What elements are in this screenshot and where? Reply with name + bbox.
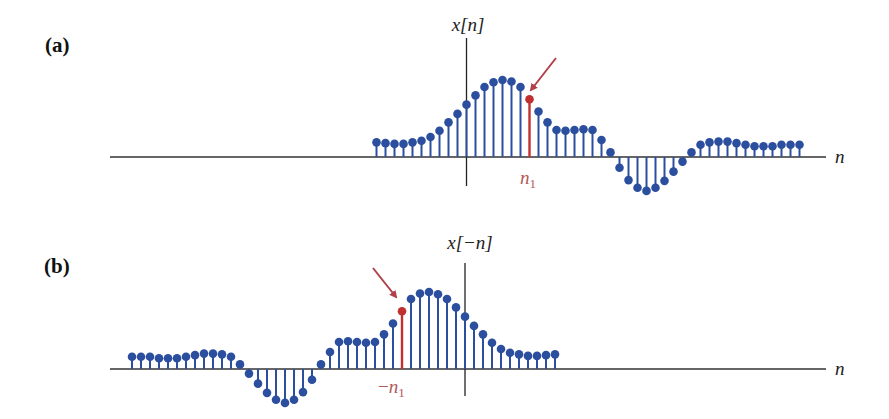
stem-marker — [227, 352, 236, 361]
stem-marker — [209, 349, 218, 358]
stem-marker — [272, 396, 281, 405]
x-axis-label: n — [835, 358, 845, 379]
stem-marker — [371, 338, 380, 347]
highlighted-stem-marker — [398, 307, 407, 316]
stem-marker — [570, 126, 579, 135]
stem-marker — [146, 352, 155, 361]
stem-marker — [795, 140, 804, 149]
stem-marker — [543, 118, 552, 127]
stem-marker — [417, 137, 426, 146]
stem-marker — [290, 396, 299, 405]
stem-marker — [425, 288, 434, 297]
stem-marker — [164, 354, 173, 363]
stem-marker — [200, 349, 209, 358]
stem-marker — [461, 312, 470, 321]
stem-marker — [470, 322, 479, 331]
stem-marker — [678, 157, 687, 166]
stem-marker — [660, 177, 669, 186]
stem-plots: x[n]nn1 x[−n]n−n1 — [0, 0, 889, 419]
stem-marker — [218, 350, 227, 359]
stem-marker — [524, 352, 533, 361]
stem-marker — [308, 375, 317, 384]
x-axis-label: n — [835, 146, 845, 167]
stem-marker — [128, 352, 137, 361]
stem-marker — [696, 140, 705, 149]
stem-marker — [669, 167, 678, 176]
stem-marker — [741, 140, 750, 149]
stem-marker — [506, 349, 515, 358]
stem-marker — [497, 345, 506, 354]
stem-marker — [444, 118, 453, 127]
stem-marker — [434, 290, 443, 299]
stem-marker — [236, 360, 245, 369]
stem-marker — [615, 163, 624, 172]
stem-marker — [254, 379, 263, 388]
stem-marker — [498, 76, 507, 85]
pointer-arrow — [373, 268, 396, 297]
stem-marker — [768, 142, 777, 151]
stem-marker — [317, 360, 326, 369]
stem-marker — [551, 350, 560, 359]
stem-marker — [191, 351, 200, 360]
stem-marker — [534, 107, 543, 116]
stem-marker — [407, 295, 416, 304]
stem-marker — [416, 289, 425, 298]
stem-marker — [155, 354, 164, 363]
stem-marker — [507, 77, 516, 86]
stem-marker — [426, 133, 435, 142]
stem-marker — [705, 138, 714, 147]
stem-marker — [786, 140, 795, 149]
stem-marker — [624, 176, 633, 185]
stem-plot-figure: (a) (b) x[n]nn1 x[−n]n−n1 — [0, 0, 889, 419]
stem-marker — [479, 330, 488, 339]
y-axis-label: x[n] — [451, 14, 485, 35]
stem-marker — [435, 127, 444, 136]
stem-marker — [642, 187, 651, 196]
stem-marker — [515, 350, 524, 359]
stem-marker — [173, 354, 182, 363]
stem-marker — [245, 369, 254, 378]
stem-marker — [723, 137, 732, 146]
stem-marker — [759, 142, 768, 151]
stem-marker — [480, 83, 489, 92]
stem-marker — [390, 140, 399, 149]
stem-marker — [516, 83, 525, 92]
plot-a: x[n]nn1 — [110, 14, 845, 195]
stem-marker — [443, 295, 452, 304]
stem-marker — [542, 351, 551, 360]
stem-marker — [750, 142, 759, 151]
stem-marker — [606, 148, 615, 157]
stem-marker — [372, 138, 381, 147]
stem-marker — [462, 100, 471, 109]
stem-marker — [399, 140, 408, 149]
highlighted-stem-marker — [525, 95, 534, 104]
stem-marker — [362, 339, 371, 348]
stem-marker — [389, 319, 398, 328]
stem-marker — [488, 339, 497, 348]
stem-marker — [552, 126, 561, 135]
marker-label: −n1 — [378, 376, 405, 400]
stem-marker — [714, 137, 723, 146]
plot-b: x[−n]n−n1 — [110, 232, 845, 407]
stem-marker — [777, 140, 786, 149]
stem-marker — [326, 348, 335, 357]
stem-marker — [299, 388, 308, 397]
stem-marker — [588, 126, 597, 135]
stem-marker — [381, 139, 390, 148]
stem-marker — [263, 389, 272, 398]
stem-marker — [732, 139, 741, 148]
y-axis-label: x[−n] — [446, 232, 493, 253]
stem-marker — [489, 78, 498, 87]
stem-marker — [137, 352, 146, 361]
stem-marker — [452, 303, 461, 312]
stem-marker — [353, 338, 362, 347]
stem-marker — [533, 352, 542, 361]
marker-label: n1 — [520, 167, 536, 191]
stem-marker — [651, 184, 660, 193]
stem-marker — [471, 91, 480, 100]
stem-marker — [335, 338, 344, 347]
stem-marker — [597, 136, 606, 145]
stem-marker — [182, 352, 191, 361]
stem-marker — [579, 125, 588, 134]
stem-marker — [453, 110, 462, 119]
